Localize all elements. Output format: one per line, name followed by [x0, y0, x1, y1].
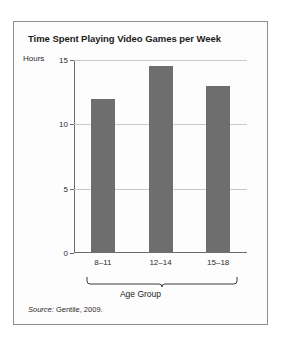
bar: [206, 86, 230, 253]
plot-area: 051015 8–1112–1415–18: [74, 60, 247, 253]
y-tick-mark: [70, 189, 74, 190]
gridline: [74, 60, 247, 61]
y-tick-label: 0: [64, 249, 68, 258]
bar: [91, 99, 115, 253]
source-note: Source: Gentile, 2009.: [28, 305, 103, 314]
figure-panel: Time Spent Playing Video Games per Week …: [13, 21, 268, 325]
x-tick-label: 15–18: [207, 258, 229, 267]
y-tick-label: 10: [59, 120, 68, 129]
y-tick-mark: [70, 124, 74, 125]
chart-title: Time Spent Playing Video Games per Week: [28, 33, 221, 44]
source-citation: Gentile, 2009.: [54, 305, 103, 314]
x-tick-label: 8–11: [94, 258, 111, 267]
y-tick-mark: [70, 253, 74, 254]
bar: [149, 66, 173, 253]
source-label: Source:: [28, 305, 54, 314]
age-group-brace: [86, 276, 238, 287]
y-axis-line: [74, 60, 75, 253]
y-axis-title: Hours: [23, 54, 44, 63]
x-tick-label: 12–14: [149, 258, 171, 267]
y-tick-mark: [70, 60, 74, 61]
y-tick-label: 15: [59, 56, 68, 65]
x-axis-title: Age Group: [14, 289, 267, 299]
y-tick-label: 5: [64, 184, 68, 193]
